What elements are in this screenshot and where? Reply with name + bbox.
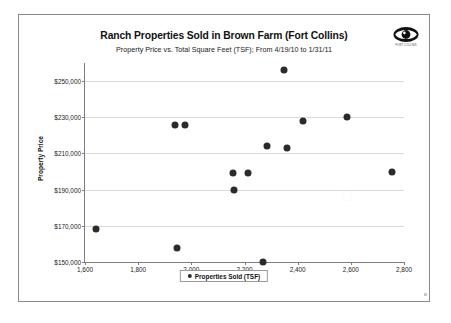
x-tick-label: 1,600 (77, 266, 93, 273)
y-axis-label: Property Price (37, 114, 44, 204)
gridline (85, 81, 404, 82)
y-tick-mark (82, 117, 85, 118)
x-tick-mark (298, 262, 299, 265)
x-tick-label: 1,800 (130, 266, 146, 273)
x-tick-mark (404, 262, 405, 265)
gridline (85, 226, 404, 227)
data-point (229, 170, 236, 177)
x-tick-label: 2,600 (343, 266, 359, 273)
gridline (85, 117, 404, 118)
x-tick-label: 2,800 (396, 266, 412, 273)
y-tick-label: $190,000 (54, 186, 81, 193)
y-tick-label: $210,000 (54, 150, 81, 157)
legend-marker-icon (188, 274, 192, 278)
x-tick-label: 2,400 (290, 266, 306, 273)
y-tick-label: $230,000 (54, 114, 81, 121)
data-point (260, 259, 267, 266)
data-point (284, 145, 291, 152)
data-point (343, 114, 350, 121)
data-point (245, 170, 252, 177)
plot-area: ⌂ $150,000$170,000$190,000$210,000$230,0… (84, 63, 404, 263)
x-tick-mark (191, 262, 192, 265)
y-tick-mark (82, 190, 85, 191)
gridline (85, 190, 404, 191)
y-tick-label: $250,000 (54, 78, 81, 85)
chart-page: FORT COLLINS Ranch Properties Sold in Br… (18, 14, 430, 302)
y-tick-label: $150,000 (54, 259, 81, 266)
data-point (281, 67, 288, 74)
watermark: ⌂ (340, 181, 353, 207)
x-tick-mark (85, 262, 86, 265)
data-point (230, 186, 237, 193)
data-point (264, 143, 271, 150)
data-point (173, 244, 180, 251)
x-tick-mark (351, 262, 352, 265)
x-tick-mark (138, 262, 139, 265)
data-point (389, 168, 396, 175)
data-point (172, 121, 179, 128)
x-tick-mark (245, 262, 246, 265)
chart-subtitle: Property Price vs. Total Square Feet (TS… (19, 45, 429, 54)
chart-legend: Properties Sold (TSF) (180, 270, 268, 282)
page-corner-mark (424, 293, 427, 296)
data-point (299, 117, 306, 124)
y-tick-mark (82, 81, 85, 82)
data-point (92, 226, 99, 233)
y-tick-mark (82, 153, 85, 154)
gridline (85, 153, 404, 154)
chart-title: Ranch Properties Sold in Brown Farm (For… (19, 30, 429, 41)
y-tick-mark (82, 226, 85, 227)
y-tick-label: $170,000 (54, 222, 81, 229)
data-point (181, 121, 188, 128)
legend-label: Properties Sold (TSF) (195, 273, 260, 280)
